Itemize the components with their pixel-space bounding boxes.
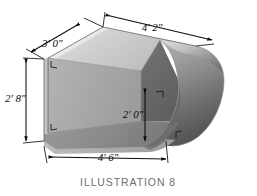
ext-line-bl-a — [44, 146, 47, 163]
dimension-height-left: 2' 8" — [5, 58, 44, 143]
dim-label-height-inner: 2' 0" — [123, 108, 144, 120]
dim-label-toplen: 4' 2" — [142, 21, 163, 33]
dim-label-height-left: 2' 8" — [5, 92, 26, 104]
ext-line-hl-a — [23, 58, 44, 59]
dim-label-bottomlen: 4' 6" — [98, 151, 119, 163]
ext-line-hl-b — [23, 141, 44, 143]
ext-line-depth-a — [84, 18, 103, 27]
illustration-figure: 3' 0" 4' 2" 2' 8" 2' 0" 4' 6" — [0, 0, 257, 196]
figure-caption: ILLUSTRATION 8 — [80, 176, 176, 188]
ext-line-toplen-b — [196, 44, 214, 46]
dim-label-depth: 3' 0" — [41, 37, 63, 49]
ext-line-depth-b — [26, 49, 44, 59]
illustration-svg: 3' 0" 4' 2" 2' 8" 2' 0" 4' 6" — [0, 0, 257, 196]
ext-line-toplen-a — [103, 12, 105, 27]
box-front-left-face — [44, 58, 48, 134]
